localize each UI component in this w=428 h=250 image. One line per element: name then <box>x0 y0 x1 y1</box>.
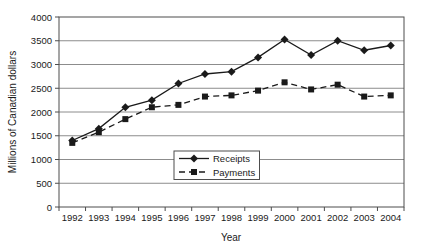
x-tick-label: 1997 <box>194 212 215 223</box>
x-tick-label: 2000 <box>274 212 295 223</box>
x-tick-label: 1995 <box>141 212 162 223</box>
x-tick-label: 1993 <box>88 212 109 223</box>
x-tick-label: 2003 <box>354 212 375 223</box>
payments-marker <box>282 79 288 85</box>
x-tick-label: 2002 <box>327 212 348 223</box>
payments-line <box>72 82 390 143</box>
y-tick-label: 3500 <box>31 35 52 46</box>
x-tick-label: 2004 <box>380 212 401 223</box>
payments-marker <box>69 140 75 146</box>
payments-marker <box>388 92 394 98</box>
payments-marker <box>175 102 181 108</box>
x-tick-label: 1999 <box>247 212 268 223</box>
payments-marker <box>96 129 102 135</box>
x-tick-label: 1998 <box>221 212 242 223</box>
legend-label: Payments <box>213 167 255 178</box>
x-axis-title: Year <box>221 232 242 243</box>
y-tick-label: 2500 <box>31 83 52 94</box>
receipts-marker <box>201 70 209 78</box>
receipts-marker <box>334 37 342 45</box>
legend: ReceiptsPayments <box>174 151 260 180</box>
y-tick-label: 3000 <box>31 59 52 70</box>
payments-marker <box>149 104 155 110</box>
axes: 0500100015002000250030003500400019921993… <box>31 12 404 224</box>
payments-marker <box>361 94 367 100</box>
line-chart: 0500100015002000250030003500400019921993… <box>0 0 428 250</box>
receipts-marker <box>254 53 262 61</box>
y-tick-label: 1500 <box>31 130 52 141</box>
payments-marker <box>122 116 128 122</box>
payments-marker <box>255 88 261 94</box>
y-tick-label: 1000 <box>31 154 52 165</box>
y-tick-label: 4000 <box>31 12 52 23</box>
data-series <box>68 36 394 146</box>
receipts-marker <box>148 96 156 104</box>
receipts-marker <box>387 42 395 50</box>
payments-marker <box>308 86 314 92</box>
plot-area: 0500100015002000250030003500400019921993… <box>0 0 428 250</box>
receipts-marker <box>174 80 182 88</box>
y-tick-label: 0 <box>47 202 52 213</box>
y-axis-title: Millions of Canadian dollars <box>7 51 18 173</box>
receipts-marker <box>360 46 368 54</box>
payments-marker <box>335 82 341 88</box>
y-tick-label: 500 <box>36 178 52 189</box>
y-tick-label: 2000 <box>31 107 52 118</box>
payments-marker <box>229 92 235 98</box>
x-tick-label: 1996 <box>168 212 189 223</box>
payments-marker <box>202 94 208 100</box>
x-tick-label: 1994 <box>115 212 136 223</box>
x-tick-label: 2001 <box>301 212 322 223</box>
legend-square-marker-icon <box>191 169 197 175</box>
legend-label: Receipts <box>213 153 250 164</box>
receipts-marker <box>307 51 315 59</box>
receipts-line <box>72 40 390 141</box>
x-tick-label: 1992 <box>62 212 83 223</box>
receipts-marker <box>281 36 289 44</box>
receipts-marker <box>228 68 236 76</box>
